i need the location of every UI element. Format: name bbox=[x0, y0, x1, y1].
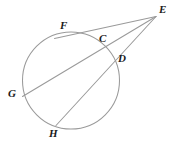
point-label-d: D bbox=[118, 53, 126, 64]
segment-eg bbox=[23, 17, 157, 97]
geometry-figure: C D E F G H bbox=[0, 0, 176, 147]
figure-strokes bbox=[23, 17, 157, 130]
point-label-e: E bbox=[159, 4, 166, 15]
point-label-h: H bbox=[49, 128, 58, 139]
point-label-g: G bbox=[8, 88, 16, 99]
point-label-f: F bbox=[60, 20, 67, 31]
geometry-canvas bbox=[0, 0, 176, 147]
point-label-c: C bbox=[99, 33, 106, 44]
